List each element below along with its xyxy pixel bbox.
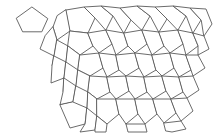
tiling-pentagon [126,124,147,132]
figure-root [0,0,219,139]
pentagonal-tiling-figure [0,0,219,139]
